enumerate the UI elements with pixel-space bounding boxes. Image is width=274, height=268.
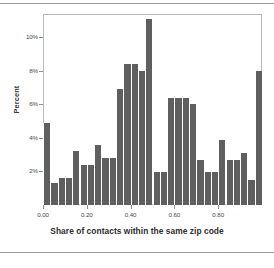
histogram-bar [189, 104, 196, 205]
y-axis-tick-mark [39, 37, 43, 38]
x-axis-tick-mark [218, 205, 219, 209]
histogram-bar [153, 172, 160, 206]
y-axis-tick-mark [39, 171, 43, 172]
y-axis-tick-mark [39, 71, 43, 72]
histogram-bar [109, 158, 116, 205]
histogram-bar [182, 98, 189, 205]
histogram-bar [72, 151, 79, 205]
x-axis-tick-label: 0.20 [72, 211, 102, 218]
histogram-bar [167, 98, 174, 205]
histogram-bar [218, 140, 225, 205]
histogram-bar [196, 160, 203, 205]
histogram-bar [204, 172, 211, 206]
x-axis-tick-label: 0.40 [116, 211, 146, 218]
histogram-bar [226, 160, 233, 205]
histogram-bar [65, 178, 72, 205]
histogram-bar [131, 64, 138, 205]
histogram-bar [240, 153, 247, 205]
y-axis-tick-mark [39, 138, 43, 139]
histogram-bar [138, 71, 145, 205]
x-axis-tick-mark [174, 205, 175, 209]
x-axis-tick-mark [87, 205, 88, 209]
y-axis-title: Percent [12, 70, 21, 130]
histogram-bar [87, 165, 94, 205]
x-axis-tick-label: 0.80 [203, 211, 233, 218]
bars-layer [43, 14, 262, 205]
histogram-figure: 2%4%6%8%10% Percent 0.000.200.400.600.80… [0, 0, 274, 268]
y-axis-tick-label: 6% [29, 100, 38, 107]
x-axis-tick-label: 0.00 [28, 211, 58, 218]
histogram-bar [123, 64, 130, 205]
histogram-bar [174, 98, 181, 205]
y-axis-tick-label: 2% [29, 167, 38, 174]
y-axis-tick-label: 8% [29, 67, 38, 74]
page-rule-top [0, 3, 274, 4]
histogram-bar [255, 71, 262, 205]
histogram-bar [43, 123, 50, 205]
histogram-bar [211, 172, 218, 206]
histogram-bar [145, 19, 152, 205]
y-axis-tick-mark [39, 104, 43, 105]
histogram-bar [50, 183, 57, 205]
histogram-bar [233, 160, 240, 205]
y-axis-tick-label: 4% [29, 134, 38, 141]
y-axis-tick-label: 10% [26, 33, 38, 40]
page-rule-bottom [0, 252, 274, 253]
histogram-bar [101, 158, 108, 205]
histogram-bar [160, 172, 167, 206]
histogram-bar [247, 180, 254, 205]
x-axis-tick-mark [43, 205, 44, 209]
x-axis-title: Share of contacts within the same zip co… [0, 226, 274, 236]
histogram-bar [58, 178, 65, 205]
histogram-bar [94, 145, 101, 205]
histogram-bar [116, 89, 123, 205]
histogram-bar [80, 165, 87, 205]
x-axis-tick-mark [131, 205, 132, 209]
x-axis-tick-label: 0.60 [159, 211, 189, 218]
